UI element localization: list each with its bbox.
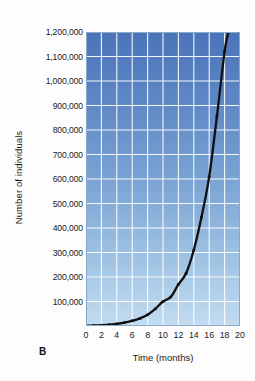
population-growth-curve [86, 32, 240, 326]
y-axis-tick-labels: 100,000200,000300,000400,000500,000600,0… [22, 32, 83, 326]
x-tick-label: 12 [173, 330, 183, 340]
data-point [223, 50, 226, 53]
data-point [92, 324, 95, 326]
y-tick-label: 900,000 [53, 101, 83, 111]
data-point [185, 272, 188, 275]
data-point [115, 322, 118, 325]
y-tick-label: 500,000 [53, 199, 83, 209]
data-point [192, 249, 195, 252]
x-tick-label: 16 [204, 330, 214, 340]
data-point [123, 321, 126, 324]
data-point [169, 296, 172, 299]
y-tick-label: 200,000 [53, 272, 83, 282]
data-point [86, 324, 88, 326]
x-tick-label: 4 [114, 330, 119, 340]
x-tick-label: 20 [235, 330, 245, 340]
x-tick-label: 2 [99, 330, 104, 340]
data-point [177, 283, 180, 286]
x-axis-title: Time (months) [86, 352, 240, 363]
data-point [200, 215, 203, 218]
y-tick-label: 1,200,000 [46, 27, 83, 37]
data-point [162, 300, 165, 303]
x-tick-label: 6 [130, 330, 135, 340]
data-point [146, 313, 149, 316]
y-tick-label: 1,100,000 [46, 52, 83, 62]
y-tick-label: 1,000,000 [46, 76, 83, 86]
x-axis-tick-labels: 02468101214161820 [86, 330, 240, 344]
panel-label: B [39, 346, 46, 357]
x-tick-label: 0 [84, 330, 89, 340]
y-tick-label: 100,000 [53, 297, 83, 307]
y-tick-label: 400,000 [53, 223, 83, 233]
plot-area [86, 32, 240, 326]
data-point [131, 319, 134, 322]
x-tick-label: 14 [189, 330, 199, 340]
exponential-growth-figure: Number of individuals 100,000200,000300,… [0, 0, 255, 381]
data-point [215, 115, 218, 118]
y-tick-label: 600,000 [53, 174, 83, 184]
y-tick-label: 300,000 [53, 248, 83, 258]
data-point [208, 175, 211, 178]
curve-line [86, 32, 228, 326]
y-tick-label: 700,000 [53, 150, 83, 160]
data-point [154, 307, 157, 310]
data-point [138, 317, 141, 320]
x-tick-label: 8 [145, 330, 150, 340]
x-tick-label: 18 [220, 330, 230, 340]
y-tick-label: 800,000 [53, 125, 83, 135]
x-tick-label: 10 [158, 330, 168, 340]
